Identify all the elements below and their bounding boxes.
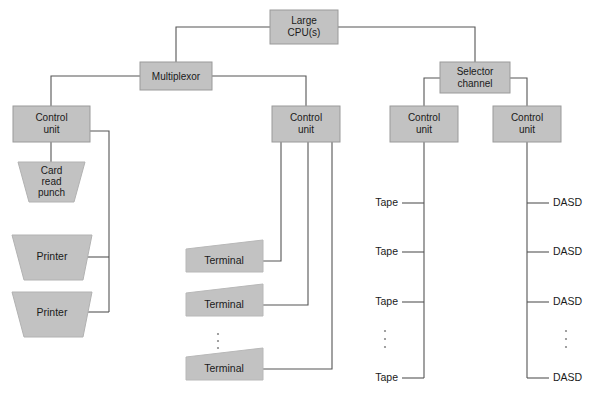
- dasd-ellipsis-icon: [565, 330, 567, 348]
- control-unit-2-box[interactable]: [272, 106, 340, 142]
- node-terminal-1[interactable]: Terminal: [186, 240, 263, 272]
- link-cpu-to-selector: [338, 27, 475, 62]
- dasd-4-label: DASD: [553, 371, 583, 383]
- link-selector-to-cu4: [510, 78, 527, 106]
- diagram-canvas: Large CPU(s) Multiplexor Selector channe…: [0, 0, 595, 407]
- node-control-unit-3[interactable]: Control unit: [390, 106, 458, 142]
- link-multiplexor-to-cu1: [51, 76, 140, 106]
- node-printer-2[interactable]: Printer: [12, 292, 92, 337]
- selector-channel-box[interactable]: [440, 62, 510, 93]
- large-cpu-box[interactable]: [270, 10, 338, 44]
- link-multiplexor-to-cu2: [212, 76, 306, 106]
- node-control-unit-2[interactable]: Control unit: [272, 106, 340, 142]
- node-large-cpu[interactable]: Large CPU(s): [270, 10, 338, 44]
- control-unit-4-box[interactable]: [493, 106, 561, 142]
- link-cu1-printer-bus: [90, 131, 109, 312]
- node-selector-channel[interactable]: Selector channel: [440, 62, 510, 93]
- multiplexor-box[interactable]: [140, 62, 212, 90]
- node-card-read-punch[interactable]: Card read punch: [18, 162, 85, 202]
- node-printer-1[interactable]: Printer: [12, 235, 92, 280]
- node-multiplexor[interactable]: Multiplexor: [140, 62, 212, 90]
- terminal-2-shape[interactable]: [186, 284, 263, 316]
- tape-1-label: Tape: [375, 196, 398, 208]
- node-terminal-3[interactable]: Terminal: [186, 348, 263, 380]
- printer-1-shape[interactable]: [12, 235, 92, 280]
- dasd-2-label: DASD: [553, 245, 583, 257]
- terminal-ellipsis-icon: [217, 333, 219, 349]
- dasd-3-label: DASD: [553, 295, 583, 307]
- terminal-1-shape[interactable]: [186, 240, 263, 272]
- system-configuration-diagram: Large CPU(s) Multiplexor Selector channe…: [0, 0, 595, 407]
- node-terminal-2[interactable]: Terminal: [186, 284, 263, 316]
- node-control-unit-1[interactable]: Control unit: [13, 106, 90, 142]
- tape-3-label: Tape: [375, 295, 398, 307]
- node-control-unit-4[interactable]: Control unit: [493, 106, 561, 142]
- tape-2-label: Tape: [375, 245, 398, 257]
- link-cu2-to-terminal1: [262, 142, 281, 261]
- tape-ellipsis-icon: [384, 330, 386, 348]
- link-cu2-to-terminal3: [262, 142, 332, 369]
- link-cu2-to-terminal2: [262, 142, 308, 305]
- card-read-punch-shape[interactable]: [18, 162, 85, 202]
- link-cpu-to-multiplexor: [176, 27, 270, 62]
- control-unit-1-box[interactable]: [13, 106, 90, 142]
- printer-2-shape[interactable]: [12, 292, 92, 337]
- control-unit-3-box[interactable]: [390, 106, 458, 142]
- tape-4-label: Tape: [375, 371, 398, 383]
- link-selector-to-cu3: [424, 78, 440, 106]
- terminal-3-shape[interactable]: [186, 348, 263, 380]
- dasd-1-label: DASD: [553, 196, 583, 208]
